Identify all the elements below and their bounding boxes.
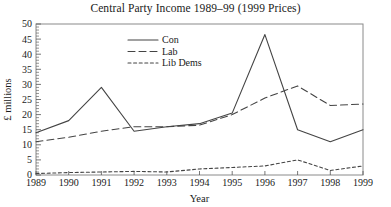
legend-label-con: Con bbox=[162, 34, 179, 45]
chart-legend: ConLabLib Dems bbox=[128, 34, 202, 68]
x-tick-label: 1999 bbox=[353, 177, 373, 188]
y-tick-label: 30 bbox=[22, 79, 32, 90]
x-tick-label: 1989 bbox=[26, 177, 46, 188]
chart-page: Central Party Income 1989–99 (1999 Price… bbox=[0, 0, 391, 207]
x-tick-label: 1992 bbox=[124, 177, 144, 188]
x-tick-label: 1998 bbox=[320, 177, 340, 188]
x-tick-label: 1996 bbox=[255, 177, 275, 188]
y-tick-label: 20 bbox=[22, 109, 32, 120]
x-axis-title: Year bbox=[190, 193, 210, 204]
x-tick-label: 1997 bbox=[288, 177, 308, 188]
y-axis-title: £ millions bbox=[2, 78, 13, 120]
x-axis: 1989199019911992199319941995199619971998… bbox=[26, 171, 373, 188]
y-axis: 05101520253035404550 bbox=[22, 18, 41, 180]
series-line-lab bbox=[36, 86, 363, 142]
line-chart-plot: 05101520253035404550£ millions1989199019… bbox=[0, 0, 391, 207]
x-tick-label: 1993 bbox=[157, 177, 177, 188]
y-tick-label: 40 bbox=[22, 49, 32, 60]
x-tick-label: 1994 bbox=[190, 177, 210, 188]
y-tick-label: 50 bbox=[22, 18, 32, 29]
plot-frame bbox=[36, 24, 363, 175]
legend-label-lab: Lab bbox=[162, 46, 178, 57]
y-tick-label: 45 bbox=[22, 34, 32, 45]
y-tick-label: 10 bbox=[22, 139, 32, 150]
y-tick-label: 5 bbox=[27, 154, 32, 165]
y-tick-label: 15 bbox=[22, 124, 32, 135]
y-tick-label: 35 bbox=[22, 64, 32, 75]
x-tick-label: 1995 bbox=[222, 177, 242, 188]
series-line-con bbox=[36, 35, 363, 142]
y-tick-label: 25 bbox=[22, 94, 32, 105]
x-tick-label: 1991 bbox=[91, 177, 111, 188]
legend-label-lib-dems: Lib Dems bbox=[162, 57, 202, 68]
x-tick-label: 1990 bbox=[59, 177, 79, 188]
